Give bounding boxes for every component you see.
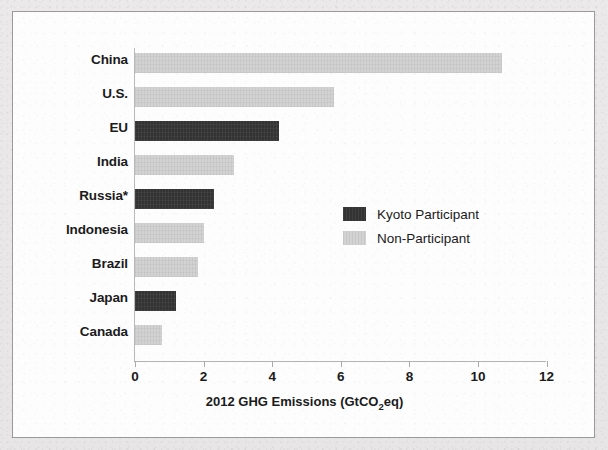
bar-eu <box>135 121 279 141</box>
legend-label-kyoto-participant: Kyoto Participant <box>377 207 479 222</box>
bar-canada <box>135 325 162 345</box>
tick-label-12: 12 <box>527 369 567 384</box>
category-label-canada: Canada <box>13 324 128 339</box>
x-axis-title-prefix: 2012 GHG Emissions (GtCO <box>206 394 379 409</box>
bar-russia <box>135 189 214 209</box>
chart-legend: Kyoto Participant Non-Participant <box>343 202 553 250</box>
category-label-brazil: Brazil <box>13 256 128 271</box>
tick-0 <box>135 361 136 367</box>
bar-us <box>135 87 334 107</box>
legend-item-non-participant: Non-Participant <box>343 226 553 250</box>
scanned-page: China U.S. EU India Russia* Indonesia Br… <box>0 0 608 450</box>
x-axis-ticks <box>135 361 547 368</box>
tick-10 <box>478 361 479 367</box>
tick-label-8: 8 <box>389 369 429 384</box>
category-label-india: India <box>13 154 128 169</box>
bar-china <box>135 53 502 73</box>
tick-2 <box>204 361 205 367</box>
tick-label-2: 2 <box>184 369 224 384</box>
tick-8 <box>409 361 410 367</box>
x-axis-title: 2012 GHG Emissions (GtCO2eq) <box>13 394 596 412</box>
tick-label-0: 0 <box>115 369 155 384</box>
tick-12 <box>547 361 548 367</box>
legend-item-kyoto-participant: Kyoto Participant <box>343 202 553 226</box>
category-label-eu: EU <box>13 120 128 135</box>
category-label-japan: Japan <box>13 290 128 305</box>
bar-india <box>135 155 234 175</box>
category-label-russia: Russia* <box>13 188 128 203</box>
nonparticipant-swatch-icon <box>343 231 366 245</box>
legend-label-non-participant: Non-Participant <box>377 231 470 246</box>
tick-label-10: 10 <box>458 369 498 384</box>
tick-label-6: 6 <box>321 369 361 384</box>
bar-japan <box>135 291 176 311</box>
x-axis-tick-labels: 0 2 4 6 8 10 12 <box>13 369 596 389</box>
category-label-indonesia: Indonesia <box>13 222 128 237</box>
figure-frame: China U.S. EU India Russia* Indonesia Br… <box>12 11 595 438</box>
bar-brazil <box>135 257 198 277</box>
category-label-us: U.S. <box>13 86 128 101</box>
tick-6 <box>341 361 342 367</box>
kyoto-swatch-icon <box>343 207 366 221</box>
chart-plot-area: China U.S. EU India Russia* Indonesia Br… <box>13 12 596 439</box>
tick-label-4: 4 <box>252 369 292 384</box>
x-axis-title-suffix: eq) <box>384 394 404 409</box>
tick-4 <box>272 361 273 367</box>
bar-indonesia <box>135 223 204 243</box>
category-label-china: China <box>13 52 128 67</box>
category-axis-labels: China U.S. EU India Russia* Indonesia Br… <box>13 49 128 361</box>
